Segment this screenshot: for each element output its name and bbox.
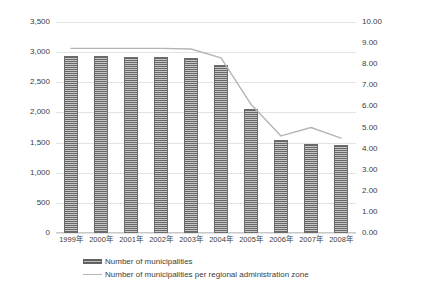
y-axis-left-tick-label: 0 [46,229,50,237]
legend-item-bar: Number of municipalities [0,255,426,268]
y-axis-right-tick-label: 2.00 [362,187,378,195]
x-axis-tick-label: 1999年 [56,236,86,244]
y-axis-right-tick-label: 0.00 [362,229,378,237]
bar-swatch-icon [83,259,102,264]
x-axis-tick-label: 2006年 [266,236,296,244]
y-axis-left-tick-label: 500 [37,199,50,207]
y-axis-right-tick-label: 10.00 [362,18,382,26]
legend-item-line: Number of municipalities per regional ad… [0,268,426,281]
line-series [56,22,356,233]
y-axis-left-tick-label: 3,000 [30,48,50,56]
y-axis-right-tick-label: 9.00 [362,39,378,47]
y-axis-left-tick-label: 1,000 [30,169,50,177]
x-axis-tick-label: 2003年 [176,236,206,244]
y-axis-right-tick-label: 3.00 [362,166,378,174]
plot-area [56,22,356,233]
y-axis-left-tick-label: 3,500 [30,18,50,26]
y-axis-left-tick-label: 2,000 [30,108,50,116]
y-axis-right-tick-label: 7.00 [362,81,378,89]
y-axis-right-tick-label: 1.00 [362,208,378,216]
x-axis-tick-label: 2005年 [236,236,266,244]
y-axis-right-tick-label: 8.00 [362,60,378,68]
x-axis-tick-label: 2002年 [146,236,176,244]
x-axis-tick-label: 2004年 [206,236,236,244]
y-axis-right-tick-label: 5.00 [362,124,378,132]
chart-legend: Number of municipalities Number of munic… [0,255,426,281]
x-axis-tick-label: 2008年 [326,236,356,244]
y-axis-left-tick-label: 1,500 [30,139,50,147]
y-axis-right-tick-label: 4.00 [362,145,378,153]
legend-label-bar: Number of municipalities [105,258,193,266]
x-axis-tick-label: 2000年 [86,236,116,244]
legend-label-line: Number of municipalities per regional ad… [105,271,309,279]
y-axis-right-tick-label: 6.00 [362,102,378,110]
y-axis-left-tick-label: 2,500 [30,78,50,86]
x-axis-tick-label: 2007年 [296,236,326,244]
line-swatch-icon [83,272,102,277]
gridline [56,233,356,234]
chart-container: 05001,0001,5002,0002,5003,0003,500 0.001… [0,0,426,291]
x-axis-tick-label: 2001年 [116,236,146,244]
